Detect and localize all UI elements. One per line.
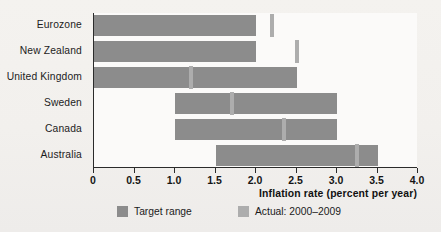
- legend-label: Target range: [134, 206, 192, 217]
- x-tick-label: 3.0: [329, 174, 344, 186]
- actual-inflation-marker: [355, 144, 359, 167]
- x-tick: [296, 168, 297, 173]
- x-tick-label: 0: [90, 174, 96, 186]
- target-range-bar: [216, 145, 378, 166]
- category-axis-labels: EurozoneNew ZealandUnited KingdomSwedenC…: [0, 13, 89, 168]
- x-tick: [377, 168, 378, 173]
- actual-inflation-marker: [230, 92, 234, 115]
- target-range-bar: [94, 15, 256, 36]
- x-tick-label: 1.5: [207, 174, 222, 186]
- plot-area: [93, 13, 417, 168]
- inflation-targeting-chart: EurozoneNew ZealandUnited KingdomSwedenC…: [0, 0, 441, 232]
- x-tick: [417, 168, 418, 173]
- category-label-sweden: Sweden: [44, 97, 82, 108]
- x-tick: [255, 168, 256, 173]
- plot-inner: [94, 13, 417, 167]
- x-axis-tick-labels: 00.51.01.52.02.53.03.54.0: [0, 174, 441, 188]
- x-tick-label: 3.5: [369, 174, 384, 186]
- legend-item: Target range: [117, 206, 192, 217]
- x-tick-label: 2.0: [248, 174, 263, 186]
- legend-swatch-icon: [238, 206, 249, 217]
- category-label-eurozone: Eurozone: [37, 19, 82, 30]
- x-tick-label: 2.5: [288, 174, 303, 186]
- x-tick: [336, 168, 337, 173]
- actual-inflation-marker: [189, 66, 193, 89]
- actual-inflation-marker: [270, 14, 274, 37]
- category-label-australia: Australia: [41, 149, 82, 160]
- target-range-bar: [94, 41, 256, 62]
- x-tick-label: 1.0: [167, 174, 182, 186]
- x-axis-title: Inflation rate (percent per year): [0, 188, 417, 199]
- legend-swatch-icon: [117, 206, 128, 217]
- chart-legend: Target rangeActual: 2000–2009: [0, 206, 441, 224]
- actual-inflation-marker: [282, 118, 286, 141]
- legend-item: Actual: 2000–2009: [238, 206, 341, 217]
- x-tick: [215, 168, 216, 173]
- target-range-bar: [175, 119, 337, 140]
- legend-label: Actual: 2000–2009: [255, 206, 341, 217]
- x-tick: [174, 168, 175, 173]
- x-tick: [134, 168, 135, 173]
- category-label-new-zealand: New Zealand: [20, 45, 82, 56]
- category-label-canada: Canada: [45, 123, 82, 134]
- actual-inflation-marker: [295, 40, 299, 63]
- target-range-bar: [94, 67, 297, 88]
- category-label-united-kingdom: United Kingdom: [7, 71, 82, 82]
- x-tick: [93, 168, 94, 173]
- x-tick-label: 0.5: [126, 174, 141, 186]
- target-range-bar: [175, 93, 337, 114]
- x-tick-label: 4.0: [410, 174, 425, 186]
